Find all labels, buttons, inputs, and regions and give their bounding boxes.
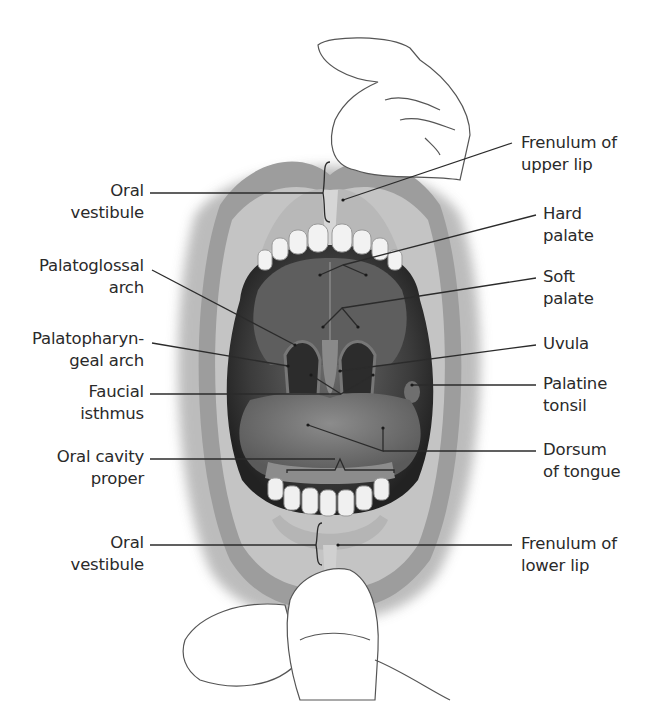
label-line: Frenulum of: [521, 132, 617, 154]
label-line: Oral: [71, 532, 144, 554]
label-line: Frenulum of: [521, 533, 617, 555]
label-palatine-tonsil: Palatine tonsil: [543, 373, 607, 417]
label-line: Uvula: [543, 333, 589, 355]
label-line: Palatoglossal: [39, 255, 144, 277]
label-hard-palate: Hard palate: [543, 203, 594, 247]
label-frenulum-upper-lip: Frenulum of upper lip: [521, 132, 617, 176]
label-line: upper lip: [521, 154, 617, 176]
label-line: tonsil: [543, 395, 607, 417]
label-line: geal arch: [32, 350, 144, 372]
label-palatoglossal-arch: Palatoglossal arch: [39, 255, 144, 299]
label-line: Palatopharyn-: [32, 328, 144, 350]
label-line: palate: [543, 225, 594, 247]
label-line: Dorsum: [543, 439, 620, 461]
label-oral-vestibule-upper: Oral vestibule: [71, 180, 144, 224]
label-line: Faucial: [80, 381, 144, 403]
oral-cavity: [227, 245, 434, 515]
label-line: vestibule: [71, 554, 144, 576]
label-line: palate: [543, 288, 594, 310]
label-faucial-isthmus: Faucial isthmus: [80, 381, 144, 425]
label-line: Soft: [543, 266, 594, 288]
upper-thumb: [318, 38, 470, 180]
label-line: Oral: [71, 180, 144, 202]
label-uvula: Uvula: [543, 333, 589, 355]
label-soft-palate: Soft palate: [543, 266, 594, 310]
label-line: Oral cavity: [57, 446, 144, 468]
label-line: of tongue: [543, 461, 620, 483]
label-dorsum-of-tongue: Dorsum of tongue: [543, 439, 620, 483]
label-line: arch: [39, 277, 144, 299]
label-line: vestibule: [71, 202, 144, 224]
label-line: Hard: [543, 203, 594, 225]
label-oral-vestibule-lower: Oral vestibule: [71, 532, 144, 576]
label-frenulum-lower-lip: Frenulum of lower lip: [521, 533, 617, 577]
label-line: Palatine: [543, 373, 607, 395]
label-oral-cavity-proper: Oral cavity proper: [57, 446, 144, 490]
label-palatopharyngeal-arch: Palatopharyn- geal arch: [32, 328, 144, 372]
label-line: lower lip: [521, 555, 617, 577]
label-line: proper: [57, 468, 144, 490]
label-line: isthmus: [80, 403, 144, 425]
